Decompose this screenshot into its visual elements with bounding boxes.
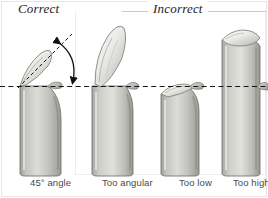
caption-too-high: Too high [233, 177, 268, 188]
caption-too-low: Too low [179, 177, 212, 188]
bud-1 [48, 82, 62, 89]
bud-3 [190, 82, 204, 89]
pruning-cut-figure: Correct Incorrect [0, 0, 268, 198]
stem-too-low [161, 82, 204, 176]
stem-too-high [222, 30, 268, 176]
stem-too-angular [92, 26, 139, 176]
bud-2 [126, 82, 139, 89]
angle-guide-line-1 [18, 34, 72, 88]
section-label-incorrect: Incorrect [148, 1, 208, 17]
cut-face-1 [20, 50, 52, 86]
caption-too-angular: Too angular [102, 177, 153, 188]
stem-illustrations [0, 0, 268, 198]
caption-correct-45: 45° angle [30, 177, 71, 188]
angle-arrow-1 [58, 42, 74, 81]
stem-correct-45 [18, 34, 74, 176]
